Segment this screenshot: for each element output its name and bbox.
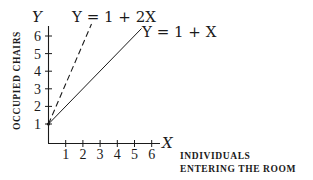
series-line-dashed xyxy=(49,24,92,124)
y-tick-label: 4 xyxy=(34,64,41,79)
x-tick-labels: 1 2 3 4 5 6 xyxy=(62,147,155,162)
intercept-point xyxy=(47,122,50,125)
x-tick-label: 6 xyxy=(148,147,155,162)
y-tick-label: 1 xyxy=(34,117,41,132)
y-axis-symbol: Y xyxy=(32,8,44,26)
x-tick-label: 5 xyxy=(131,147,138,162)
series-label-solid: Y = 1 + X xyxy=(141,23,217,41)
x-axis-title-line1: INDIVIDUALS xyxy=(180,151,250,161)
y-tick-label: 2 xyxy=(34,99,41,114)
x-tick-label: 2 xyxy=(79,147,86,162)
x-tick-label: 4 xyxy=(114,147,121,162)
y-tick-label: 3 xyxy=(34,82,41,97)
line-chart: 1 2 3 4 5 6 1 2 3 4 5 6 Y X Y = 1 + 2X Y… xyxy=(0,0,313,180)
y-tick-label: 6 xyxy=(34,29,41,44)
series-line-solid xyxy=(49,29,142,125)
x-tick-label: 1 xyxy=(62,147,69,162)
x-axis-symbol: X xyxy=(161,134,174,152)
x-axis-title-line2: ENTERING THE ROOM xyxy=(180,164,296,174)
y-tick-label: 5 xyxy=(34,47,41,62)
y-axis-title: OCCUPIED CHAIRS xyxy=(12,31,22,130)
y-tick-labels: 1 2 3 4 5 6 xyxy=(34,29,41,132)
x-tick-label: 3 xyxy=(97,147,104,162)
